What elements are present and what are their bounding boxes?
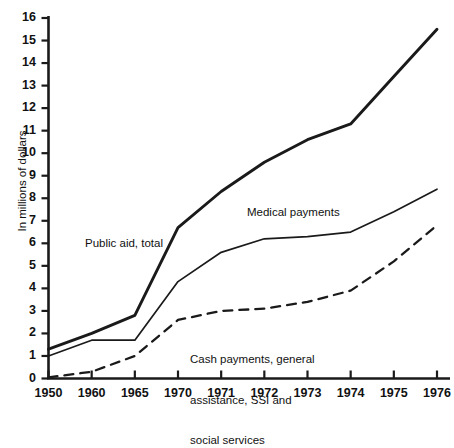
annotation-cash-line-2: assistance, SSI and [190, 394, 315, 408]
annotation-cash-line-3: social services [190, 434, 315, 448]
annotation-public-aid: Public aid, total [85, 237, 163, 251]
annotation-cash-payments: Cash payments, general assistance, SSI a… [190, 326, 315, 448]
annotation-cash-line-1: Cash payments, general [190, 353, 315, 367]
annotation-medical-payments: Medical payments [247, 206, 340, 220]
axis-lines [42, 16, 451, 379]
series-line-0 [49, 29, 438, 349]
